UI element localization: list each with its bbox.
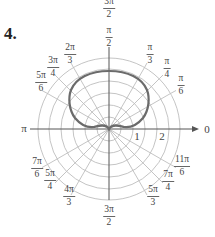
radial-tick-label-2: 2: [159, 130, 165, 142]
angle-label-7pi-6: 7π6: [31, 157, 43, 179]
angle-label-pi-6: π6: [178, 74, 185, 96]
angle-label-4pi-3: 4π3: [63, 185, 75, 207]
angle-label-pi: π: [21, 122, 27, 134]
angle-label-11pi-6: 11π6: [174, 155, 190, 177]
angle-label-cut-3pi-2: 3π2: [103, 0, 115, 19]
angle-label-5pi-6: 5π6: [35, 71, 47, 93]
axis-arrow-icon: [192, 126, 199, 132]
angle-label-zero: 0: [204, 123, 210, 135]
radial-tick-label-1: 1: [134, 130, 140, 142]
angle-label-pi-4: π4: [164, 57, 171, 79]
angle-label-pi-3: π3: [147, 43, 154, 65]
angle-label-5pi-3: 5π3: [147, 185, 159, 207]
angle-label-2pi-3: 2π3: [64, 43, 76, 65]
angle-label-3pi-4: 3π4: [47, 56, 59, 78]
angle-label-3pi-2: 3π2: [103, 205, 115, 227]
angle-label-7pi-4: 7π4: [162, 170, 174, 192]
angle-label-5pi-4: 5π4: [44, 169, 56, 191]
angle-label-pi-2: π2: [106, 26, 113, 48]
polar-graph-figure: 4.: [0, 0, 215, 237]
